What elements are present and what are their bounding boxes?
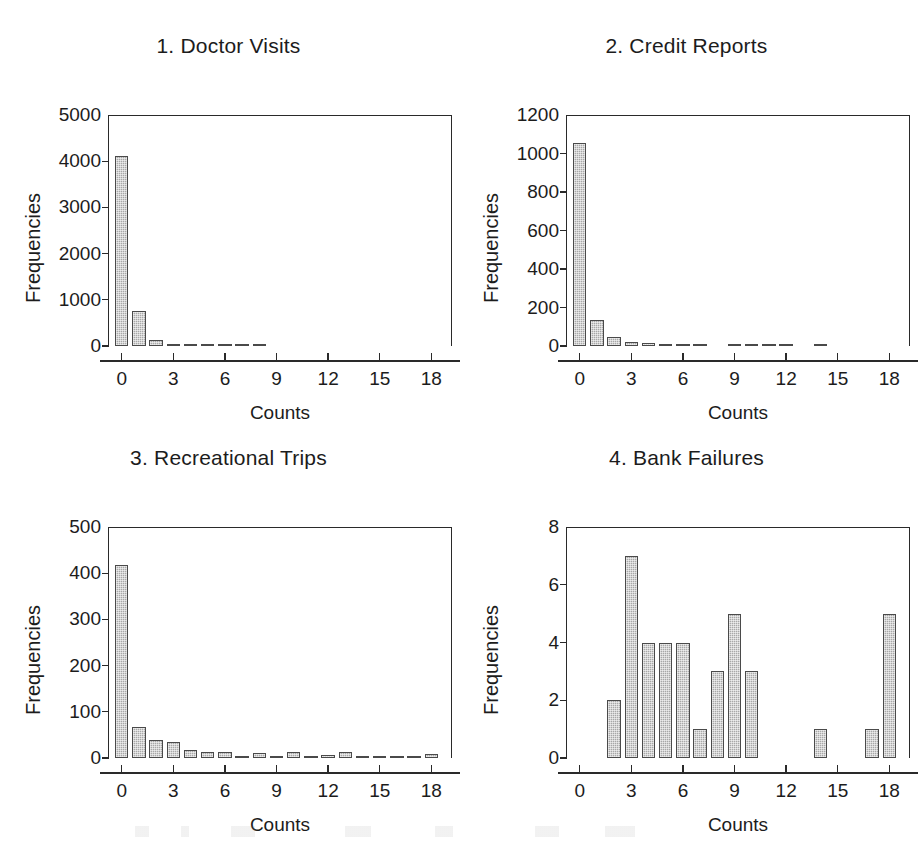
histogram-bar <box>390 756 403 759</box>
y-tick-label: 1000 <box>504 143 559 165</box>
histogram-bar <box>607 700 620 758</box>
y-tick-label: 4 <box>504 632 559 654</box>
histogram-bar <box>115 156 128 346</box>
y-tick-label: 300 <box>46 608 101 630</box>
x-tick-label: 9 <box>729 780 740 802</box>
y-tick-label: 400 <box>46 562 101 584</box>
x-tick-label: 0 <box>116 780 127 802</box>
x-tick-label: 3 <box>626 780 637 802</box>
x-tick-label: 18 <box>879 368 900 390</box>
x-tick-mark <box>276 765 277 772</box>
y-tick-label: 0 <box>504 747 559 769</box>
y-axis-label: Frequencies <box>480 192 503 302</box>
y-tick-label: 4000 <box>46 150 101 172</box>
x-tick-label: 15 <box>827 368 848 390</box>
histogram-bar <box>745 344 758 347</box>
x-axis-label: Counts <box>250 402 310 424</box>
x-tick-label: 3 <box>626 368 637 390</box>
histogram-bar <box>814 729 827 758</box>
x-tick-label: 9 <box>271 368 282 390</box>
histogram-bar <box>339 752 352 758</box>
plot-area-2: Frequencies02004006008001000120003691215… <box>458 18 915 418</box>
histogram-bar <box>607 337 620 346</box>
x-tick-label: 15 <box>827 780 848 802</box>
histogram-bar <box>676 344 689 347</box>
x-tick-label: 15 <box>369 780 390 802</box>
x-tick-mark <box>224 765 225 772</box>
histogram-bar <box>625 556 638 758</box>
x-tick-mark <box>579 765 580 772</box>
bars-layer <box>108 527 452 758</box>
x-tick-mark <box>579 353 580 360</box>
histogram-bar <box>149 740 162 758</box>
histogram-bar <box>167 344 180 347</box>
x-tick-mark <box>276 353 277 360</box>
x-tick-mark <box>431 765 432 772</box>
x-tick-label: 18 <box>879 780 900 802</box>
histogram-bar <box>253 344 266 347</box>
x-tick-mark <box>121 765 122 772</box>
histogram-bar <box>642 643 655 759</box>
plot-area-4: Frequencies024680369121518Counts <box>458 430 915 830</box>
histogram-bar <box>814 344 827 347</box>
x-axis-label: Counts <box>708 402 768 424</box>
x-tick-label: 6 <box>678 368 689 390</box>
histogram-bar <box>676 643 689 759</box>
histogram-bar <box>184 750 197 758</box>
histogram-bar <box>883 614 896 758</box>
x-tick-label: 12 <box>776 780 797 802</box>
y-tick-label: 200 <box>46 655 101 677</box>
histogram-bar <box>373 756 386 759</box>
x-tick-label: 12 <box>318 368 339 390</box>
histogram-bar <box>573 143 586 346</box>
panel-recreational-trips: 3. Recreational Trips Frequencies0100200… <box>0 430 457 830</box>
histogram-bar <box>728 614 741 758</box>
histogram-bar <box>425 754 438 758</box>
panel-credit-reports: 2. Credit Reports Frequencies02004006008… <box>458 18 915 418</box>
x-tick-mark <box>837 353 838 360</box>
plot-area-3: Frequencies01002003004005000369121518Cou… <box>0 430 457 830</box>
histogram-bar <box>253 753 266 758</box>
x-tick-mark <box>173 765 174 772</box>
histogram-bar <box>287 752 300 758</box>
histogram-bar <box>711 671 724 758</box>
histogram-bar <box>218 344 231 347</box>
y-axis-label: Frequencies <box>22 604 45 714</box>
x-tick-mark <box>173 353 174 360</box>
plot-area-1: Frequencies01000200030004000500003691215… <box>0 18 457 418</box>
y-tick-label: 5000 <box>46 104 101 126</box>
x-tick-label: 0 <box>574 368 585 390</box>
x-tick-mark <box>631 353 632 360</box>
panel-bank-failures: 4. Bank Failures Frequencies024680369121… <box>458 430 915 830</box>
x-tick-label: 12 <box>776 368 797 390</box>
bars-layer <box>108 115 452 346</box>
x-axis-line <box>100 772 460 774</box>
x-tick-mark <box>121 353 122 360</box>
y-tick-label: 600 <box>504 220 559 242</box>
histogram-bar <box>321 755 334 758</box>
y-tick-label: 0 <box>46 335 101 357</box>
x-tick-label: 18 <box>421 780 442 802</box>
y-tick-label: 6 <box>504 574 559 596</box>
bars-layer <box>566 527 910 758</box>
x-tick-mark <box>785 765 786 772</box>
x-tick-mark <box>379 765 380 772</box>
x-axis-label: Counts <box>708 814 768 836</box>
y-tick-label: 2000 <box>46 243 101 265</box>
histogram-bar <box>745 671 758 758</box>
x-tick-mark <box>837 765 838 772</box>
y-axis-label: Frequencies <box>480 604 503 714</box>
y-axis-label: Frequencies <box>22 192 45 302</box>
y-tick-label: 200 <box>504 297 559 319</box>
x-tick-mark <box>682 765 683 772</box>
histogram-bar <box>642 343 655 346</box>
y-tick-label: 3000 <box>46 196 101 218</box>
histogram-bar <box>132 727 145 758</box>
x-tick-label: 0 <box>116 368 127 390</box>
x-tick-label: 6 <box>220 368 231 390</box>
histogram-bar <box>270 756 283 759</box>
y-tick-label: 1000 <box>46 289 101 311</box>
histogram-bar <box>235 344 248 347</box>
histogram-bar <box>132 311 145 346</box>
